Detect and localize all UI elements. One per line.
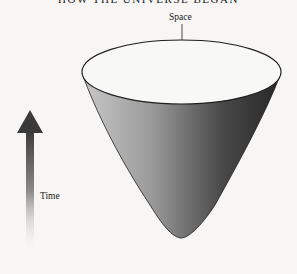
space-label: Space — [169, 12, 192, 22]
time-label: Time — [40, 191, 60, 201]
time-arrow-shaft — [26, 130, 34, 252]
spacetime-diagram — [0, 0, 297, 274]
time-arrow-head — [17, 110, 43, 133]
space-ellipse — [82, 40, 281, 104]
time-arrow — [17, 110, 43, 252]
